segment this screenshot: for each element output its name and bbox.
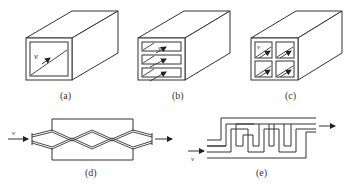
velocity-label: v	[191, 155, 195, 163]
panel-label-d: (d)	[85, 167, 97, 179]
housing-top	[52, 119, 133, 131]
velocity-label: v	[12, 129, 16, 137]
panel-e: v (e)	[188, 118, 335, 179]
panel-label-e: (e)	[256, 167, 267, 179]
box-3d	[251, 11, 342, 80]
panel-label-a: (a)	[60, 90, 71, 102]
panel-label-b: (b)	[172, 90, 184, 102]
serpentine-outer-bottom	[207, 132, 316, 158]
box-3d	[26, 11, 118, 80]
panel-label-c: (c)	[285, 90, 296, 102]
panel-b: v (b)	[138, 11, 230, 102]
box-3d	[138, 11, 230, 80]
flow-channel-figure: v (a) v (b)	[0, 0, 348, 190]
panel-c: v (c)	[251, 11, 342, 102]
panel-a: v (a)	[26, 11, 118, 102]
velocity-label: v	[34, 51, 38, 61]
housing-bottom	[52, 148, 133, 160]
panel-d: v (d)	[8, 119, 172, 179]
zigzag-channel-2	[32, 138, 152, 149]
zigzag-channel-1	[32, 130, 152, 141]
